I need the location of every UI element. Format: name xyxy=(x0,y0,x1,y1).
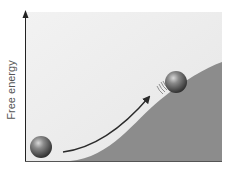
y-axis-label: Free energy xyxy=(4,50,18,130)
ball-low-energy-icon xyxy=(30,136,52,158)
ball-high-energy-icon xyxy=(165,71,187,93)
free-energy-diagram xyxy=(0,0,226,174)
